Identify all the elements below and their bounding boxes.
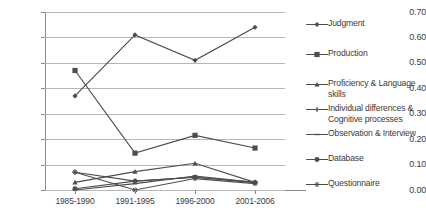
data-point-star	[192, 176, 197, 181]
legend-glyph	[306, 104, 328, 115]
legend-item-3[interactable]: Individual differences & Cognitive proce…	[306, 103, 413, 124]
series-line-0	[75, 27, 255, 96]
legend-glyph	[306, 49, 328, 60]
data-point-square	[252, 145, 257, 150]
data-point-square	[72, 68, 77, 73]
data-point-star	[252, 181, 257, 186]
legend-label: Questionnaire	[328, 178, 380, 189]
series-layer	[45, 12, 285, 190]
data-point-circle	[315, 157, 320, 162]
legend-glyph	[306, 129, 328, 140]
x-tick-mark	[135, 190, 136, 194]
y-tick-label: 0.60	[388, 33, 426, 42]
x-tick-mark	[75, 190, 76, 194]
legend-marker-star-icon	[306, 179, 328, 190]
legend-item-4[interactable]: Observation & Interview	[306, 128, 416, 140]
data-point-square	[132, 151, 137, 156]
legend-item-0[interactable]: Judgment	[306, 18, 365, 30]
x-tick-mark	[195, 190, 196, 194]
x-tick-label: 1985-1990	[43, 196, 107, 206]
data-point-diamond	[192, 58, 197, 63]
legend-label: Individual differences & Cognitive proce…	[328, 103, 413, 124]
legend-marker-plus-icon	[306, 104, 328, 115]
legend-marker-square-icon	[306, 49, 328, 60]
legend-glyph	[306, 179, 328, 190]
y-tick-label: 0.70	[388, 8, 426, 17]
x-tick-mark	[255, 190, 256, 194]
data-point-square	[192, 133, 197, 138]
y-tick-label: 0.50	[388, 58, 426, 67]
legend-marker-triangle-icon	[306, 79, 328, 90]
plot-area	[45, 12, 285, 190]
data-point-diamond	[314, 22, 319, 27]
data-point-triangle	[314, 82, 319, 87]
legend-item-2[interactable]: Proficiency & Language skills	[306, 78, 426, 99]
legend-glyph	[306, 79, 328, 90]
legend-item-1[interactable]: Production	[306, 48, 368, 60]
data-point-star	[314, 182, 319, 187]
x-tick-label: 2001-2006	[223, 196, 287, 206]
y-tick-label: 0.00	[388, 186, 426, 195]
caption-strip	[0, 214, 426, 222]
series-line-1	[75, 70, 255, 153]
data-point-plus	[314, 107, 319, 112]
legend-marker-circle-icon	[306, 154, 328, 165]
legend-item-6[interactable]: Questionnaire	[306, 178, 380, 190]
legend-label: Proficiency & Language skills	[328, 78, 426, 99]
gridline	[45, 190, 285, 191]
legend-marker-dash-icon	[306, 129, 328, 140]
legend-label: Judgment	[328, 18, 365, 29]
legend-marker-diamond-icon	[306, 19, 328, 30]
legend-glyph	[306, 19, 328, 30]
legend-label: Database	[328, 153, 364, 164]
y-tick-label: 0.10	[388, 160, 426, 169]
data-point-circle	[133, 179, 138, 184]
x-tick-label: 1991-1995	[103, 196, 167, 206]
data-point-diamond	[252, 25, 257, 30]
legend-label: Observation & Interview	[328, 128, 416, 139]
data-point-star	[72, 170, 77, 175]
line-chart: 0.000.100.200.300.400.500.600.70 1985-19…	[0, 0, 426, 222]
legend-glyph	[306, 154, 328, 165]
legend-label: Production	[328, 48, 368, 59]
legend-item-5[interactable]: Database	[306, 153, 364, 165]
x-tick-label: 1996-2000	[163, 196, 227, 206]
data-point-square	[314, 52, 319, 57]
